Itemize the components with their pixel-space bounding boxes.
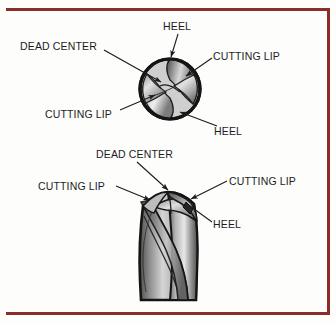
label-cutting-lip-side-left: CUTTING LIP: [38, 180, 105, 192]
leader-heel-bottom: [180, 112, 217, 126]
leader-heel-top: [171, 34, 178, 57]
drill-nomenclature-figure: HEEL DEAD CENTER CUTTING LIP CUTTING LIP…: [0, 0, 336, 325]
label-cutting-lip-side-right: CUTTING LIP: [229, 175, 296, 187]
label-heel-top-bottom: HEEL: [214, 125, 242, 137]
label-dead-center-top: DEAD CENTER: [20, 40, 97, 52]
leader-cutting-lip-left-2: [116, 186, 150, 200]
label-cutting-lip-top-right: CUTTING LIP: [213, 50, 280, 62]
drill-end-view: [140, 59, 200, 119]
leader-dead-center-2: [137, 162, 168, 190]
label-heel-top: HEEL: [163, 20, 191, 32]
label-heel-side: HEEL: [213, 218, 241, 230]
label-cutting-lip-top-left: CUTTING LIP: [45, 108, 112, 120]
leader-cutting-lip-right-2: [191, 181, 227, 199]
drill-side-view: [140, 192, 198, 300]
label-dead-center-side: DEAD CENTER: [96, 148, 173, 160]
